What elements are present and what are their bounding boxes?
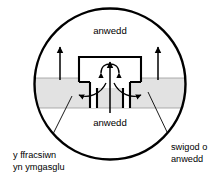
label-vapour-bottom: anwedd	[93, 117, 127, 128]
label-vapour-bubbles-line1: swigod o	[171, 142, 207, 152]
label-fraction-collecting-line1: y ffracsiwn	[13, 150, 56, 160]
label-vapour-bubbles-line2: anwedd	[171, 154, 203, 164]
diagram-root: anwedd anwedd y ffracsiwn yn ymgasglu sw…	[0, 0, 220, 185]
distillation-diagram: anwedd anwedd y ffracsiwn yn ymgasglu sw…	[0, 0, 220, 185]
label-vapour-top: anwedd	[93, 25, 127, 36]
label-fraction-collecting-line2: yn ymgasglu	[13, 162, 65, 172]
